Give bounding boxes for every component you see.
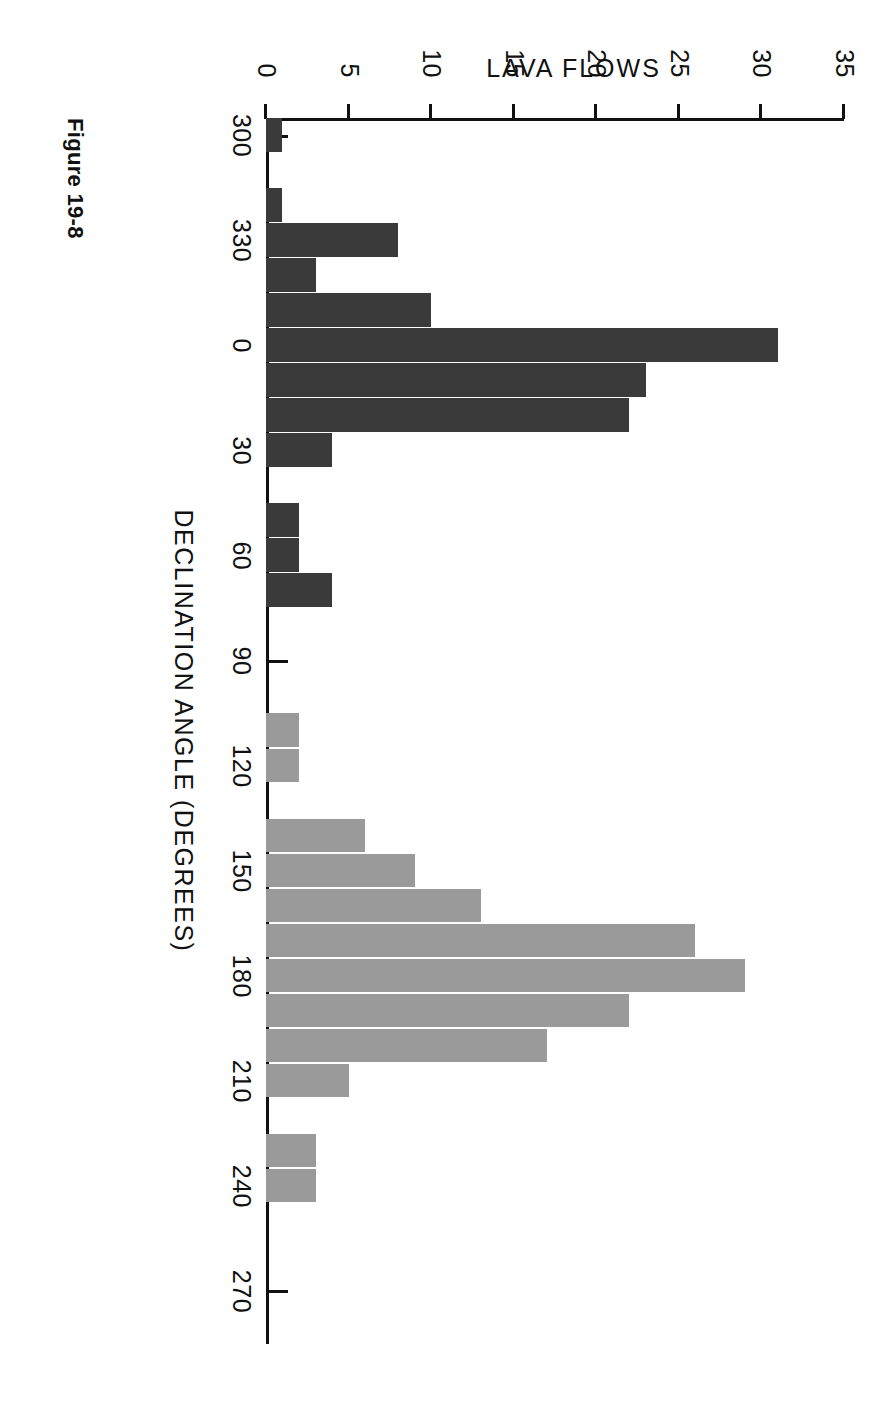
histogram-bar xyxy=(266,223,398,257)
x-tick-label: 210 xyxy=(227,1036,256,1126)
histogram-bar xyxy=(266,118,283,152)
y-tick-label: 10 xyxy=(417,34,446,78)
x-tick-label: 240 xyxy=(227,1141,256,1231)
histogram-bar xyxy=(266,854,415,888)
figure-caption: Figure 19-8 xyxy=(62,118,88,239)
x-tick-label: 30 xyxy=(227,406,256,496)
y-tick-mark xyxy=(677,104,680,119)
rotated-page-stage: 05101520253035 3003300306090120150180210… xyxy=(0,0,888,1404)
histogram-bar xyxy=(266,924,695,958)
histogram-bar xyxy=(266,749,299,783)
y-tick-mark xyxy=(429,104,432,119)
histogram-bar xyxy=(266,398,629,432)
y-tick-mark xyxy=(512,104,515,119)
histogram-bar xyxy=(266,1134,316,1168)
histogram-bar xyxy=(266,959,745,993)
histogram-bar xyxy=(266,1029,547,1063)
histogram-bar xyxy=(266,293,431,327)
chart-plot-area: 05101520253035 3003300306090120150180210… xyxy=(0,0,888,1404)
x-tick-label: 300 xyxy=(227,91,256,181)
histogram-bar xyxy=(266,889,481,923)
histogram-bar xyxy=(266,188,283,222)
y-tick-label: 0 xyxy=(252,34,281,78)
histogram-bar xyxy=(266,1064,349,1098)
y-tick-mark xyxy=(759,104,762,119)
y-tick-mark xyxy=(594,104,597,119)
y-tick-mark xyxy=(842,104,845,119)
x-tick-label: 150 xyxy=(227,826,256,916)
histogram-bar xyxy=(266,433,332,467)
x-tick-label: 120 xyxy=(227,721,256,811)
x-tick-label: 270 xyxy=(227,1246,256,1336)
y-tick-label: 30 xyxy=(747,34,776,78)
histogram-bar xyxy=(266,503,299,537)
x-axis-title: DECLINATION ANGLE (DEGREES) xyxy=(169,118,198,1344)
histogram-bar xyxy=(266,1169,316,1203)
x-tick-label: 90 xyxy=(227,616,256,706)
histogram-bar xyxy=(266,258,316,292)
histogram-bar xyxy=(266,713,299,747)
y-tick-mark xyxy=(264,104,267,119)
x-tick-label: 60 xyxy=(227,511,256,601)
x-tick-label: 0 xyxy=(227,301,256,391)
histogram-bar xyxy=(266,994,629,1028)
histogram-bar xyxy=(266,363,646,397)
x-tick-label: 330 xyxy=(227,196,256,286)
y-tick-mark xyxy=(347,104,350,119)
histogram-bar xyxy=(266,819,365,853)
histogram-bar xyxy=(266,328,778,362)
histogram-bar xyxy=(266,538,299,572)
histogram-bar xyxy=(266,573,332,607)
y-tick-label: 35 xyxy=(830,34,859,78)
y-axis-title: LAVA FLOWS xyxy=(444,54,704,83)
y-tick-label: 5 xyxy=(335,34,364,78)
x-tick-label: 180 xyxy=(227,931,256,1021)
bar-series xyxy=(266,118,844,1344)
